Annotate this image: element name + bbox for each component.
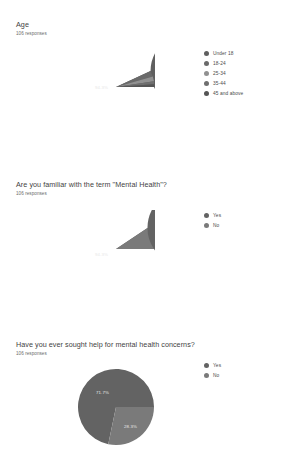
chart-card-familiar: Are you familiar with the term "Mental H… bbox=[0, 160, 286, 320]
legend-swatch-icon bbox=[204, 61, 209, 66]
legend-item-no[interactable]: No bbox=[204, 371, 270, 381]
legend-swatch-icon bbox=[204, 373, 209, 378]
legend-label: No bbox=[213, 373, 219, 379]
legend-swatch-icon bbox=[204, 71, 209, 76]
pie-svg-age: 94.3% bbox=[77, 48, 155, 126]
chart-card-age: Age 106 responses 94.3% Under 18 18-24 2… bbox=[0, 0, 286, 160]
chart-legend-familiar: Yes No bbox=[204, 211, 270, 231]
pie-chart-age: 94.3% bbox=[77, 48, 155, 126]
legend-item-35-44[interactable]: 35-44 bbox=[204, 79, 270, 89]
legend-label: No bbox=[213, 223, 219, 229]
pie-chart-sought: 71.7% 28.3% bbox=[77, 368, 155, 446]
chart-card-sought: Have you ever sought help for mental hea… bbox=[0, 320, 286, 472]
chart-title-familiar: Are you familiar with the term "Mental H… bbox=[16, 180, 167, 189]
legend-item-yes[interactable]: Yes bbox=[204, 211, 270, 221]
pie-label-familiar-0: 94.3% bbox=[95, 252, 108, 257]
legend-swatch-icon bbox=[204, 81, 209, 86]
pie-chart-familiar: 94.3% bbox=[77, 210, 155, 288]
legend-label: Yes bbox=[213, 363, 221, 369]
pie-label-age-0: 94.3% bbox=[95, 85, 108, 90]
legend-item-no[interactable]: No bbox=[204, 221, 270, 231]
legend-label: 35-44 bbox=[213, 81, 226, 87]
chart-response-count-age: 106 responses bbox=[16, 31, 47, 37]
chart-title-age: Age bbox=[16, 20, 29, 29]
chart-response-count-sought: 106 responses bbox=[16, 351, 47, 357]
legend-label: Yes bbox=[213, 213, 221, 219]
legend-label: 25-34 bbox=[213, 71, 226, 77]
legend-swatch-icon bbox=[204, 223, 209, 228]
legend-item-25-34[interactable]: 25-34 bbox=[204, 69, 270, 79]
legend-swatch-icon bbox=[204, 91, 209, 96]
legend-label: 18-24 bbox=[213, 61, 226, 67]
legend-label: 45 and above bbox=[213, 91, 243, 97]
pie-label-sought-1: 28.3% bbox=[124, 424, 137, 429]
legend-item-18-24[interactable]: 18-24 bbox=[204, 59, 270, 69]
legend-item-45-and-above[interactable]: 45 and above bbox=[204, 89, 270, 99]
chart-legend-age: Under 18 18-24 25-34 35-44 45 and above bbox=[204, 49, 270, 99]
legend-item-under-18[interactable]: Under 18 bbox=[204, 49, 270, 59]
pie-label-sought-0: 71.7% bbox=[96, 390, 109, 395]
legend-swatch-icon bbox=[204, 363, 209, 368]
chart-response-count-familiar: 106 responses bbox=[16, 191, 47, 197]
pie-svg-sought: 71.7% 28.3% bbox=[77, 368, 155, 446]
legend-swatch-icon bbox=[204, 213, 209, 218]
legend-item-yes[interactable]: Yes bbox=[204, 361, 270, 371]
chart-title-sought: Have you ever sought help for mental hea… bbox=[16, 340, 195, 349]
chart-legend-sought: Yes No bbox=[204, 361, 270, 381]
pie-svg-familiar: 94.3% bbox=[77, 210, 155, 288]
legend-swatch-icon bbox=[204, 51, 209, 56]
legend-label: Under 18 bbox=[213, 51, 234, 57]
